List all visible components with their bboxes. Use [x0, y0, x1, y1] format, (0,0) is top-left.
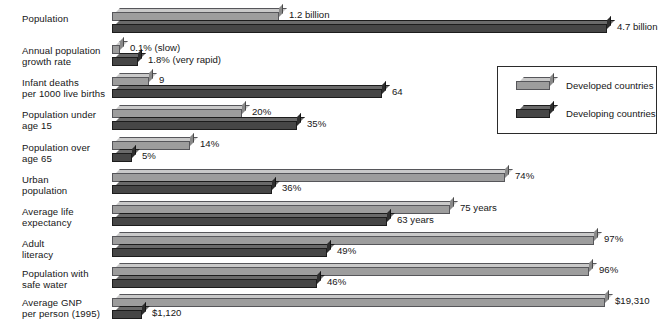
bar-end-cap [132, 145, 136, 158]
bar-value-label: 74% [515, 170, 534, 181]
bar-end-cap [149, 69, 153, 82]
bar-end-cap [120, 37, 124, 50]
bar-front-face [112, 24, 607, 33]
category-label: Population [22, 13, 68, 24]
legend-label: Developed countries [566, 80, 653, 91]
bar-front-face [516, 81, 550, 90]
category-label: Population over age 65 [22, 142, 90, 165]
bar-end-cap [297, 113, 301, 126]
chart-legend: Developed countries Developing countries [497, 66, 657, 134]
bar-end-cap [190, 133, 194, 146]
bar-value-label: $1,120 [152, 307, 181, 318]
bar-developing [112, 279, 317, 288]
bar-value-label: 96% [599, 264, 618, 275]
category-label: Average GNP per person (1995) [22, 297, 100, 320]
bar-end-cap [317, 271, 321, 284]
bar-end-cap [505, 165, 509, 178]
legend-item-developing: Developing countries [516, 109, 550, 118]
bar-value-label: 20% [252, 106, 271, 117]
bar-front-face [112, 57, 138, 66]
developed-swatch [516, 81, 550, 90]
bar-developing [112, 310, 142, 319]
bar-value-label: 5% [142, 150, 156, 161]
bar-value-label: 0.1% (slow) [130, 42, 180, 53]
bar-end-cap [605, 290, 609, 303]
category-label: Population under age 15 [22, 109, 96, 132]
legend-item-developed: Developed countries [516, 81, 550, 90]
comparison-bar-chart: Population Annual population growth rate… [0, 0, 671, 330]
bar-developing [112, 121, 297, 130]
bar-end-cap [550, 101, 554, 114]
bar-developing [112, 217, 387, 226]
category-label: Annual population growth rate [22, 45, 101, 68]
legend-label: Developing countries [566, 108, 656, 119]
bar-value-label: 1.8% (very rapid) [148, 54, 221, 65]
bar-front-face [112, 298, 605, 307]
bar-value-label: 64 [392, 86, 403, 97]
bar-front-face [516, 109, 550, 118]
bar-value-label: 14% [200, 138, 219, 149]
bar-value-label: 75 years [460, 202, 497, 213]
bar-end-cap [550, 73, 554, 86]
bar-end-cap [387, 209, 391, 222]
bar-end-cap [138, 49, 142, 62]
bar-value-label: 4.7 billion [617, 21, 658, 32]
bar-developing [112, 248, 327, 257]
category-label: Population with safe water [22, 268, 89, 291]
bar-developed [112, 298, 605, 307]
bar-end-cap [607, 16, 611, 29]
bar-front-face [112, 279, 317, 288]
bar-end-cap [272, 177, 276, 190]
category-label: Urban population [22, 174, 67, 197]
category-label: Infant deaths per 1000 live births [22, 77, 105, 100]
bar-front-face [112, 121, 297, 130]
bar-value-label: 97% [604, 233, 623, 244]
bar-value-label: 9 [159, 74, 164, 85]
bar-developing [112, 24, 607, 33]
bar-end-cap [589, 259, 593, 272]
bar-value-label: 1.2 billion [289, 9, 330, 20]
bar-end-cap [382, 81, 386, 94]
bar-end-cap [142, 302, 146, 315]
bar-value-label: 46% [327, 276, 346, 287]
bar-front-face [112, 217, 387, 226]
bar-value-label: 35% [307, 118, 326, 129]
developing-swatch [516, 109, 550, 118]
bar-developing [112, 89, 382, 98]
bar-end-cap [327, 240, 331, 253]
bar-front-face [112, 185, 272, 194]
bar-front-face [112, 248, 327, 257]
bar-value-label: $19,310 [615, 295, 650, 306]
bar-value-label: 63 years [397, 214, 434, 225]
bar-developing [112, 185, 272, 194]
bar-front-face [112, 153, 132, 162]
bar-front-face [112, 89, 382, 98]
bar-end-cap [242, 101, 246, 114]
bar-end-cap [450, 197, 454, 210]
bar-developing [112, 57, 138, 66]
bar-end-cap [279, 4, 283, 17]
bar-value-label: 49% [337, 245, 356, 256]
bar-end-cap [594, 228, 598, 241]
bar-front-face [112, 310, 142, 319]
bar-developing [112, 153, 132, 162]
category-label: Adult literacy [22, 238, 53, 261]
bar-value-label: 36% [282, 182, 301, 193]
category-label: Average life expectancy [22, 206, 74, 229]
